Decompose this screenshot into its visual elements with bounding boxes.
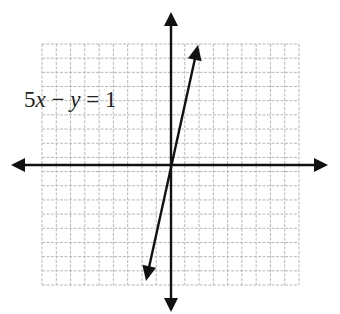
equation-coef-x: 5 [24,87,36,112]
x-axis-left-arrow-icon [11,158,25,172]
x-axis-right-arrow-icon [314,158,328,172]
line-up-arrow-icon [188,45,202,61]
y-axis-up-arrow-icon [164,12,178,26]
line-down-arrow-icon [142,265,156,281]
equation-label: 5x − y = 1 [24,87,116,113]
equation-equals: = [80,87,104,112]
coordinate-graph [0,0,340,314]
equation-rhs: 1 [105,87,117,112]
equation-minus: − [46,87,70,112]
equation-var-y: y [70,87,80,112]
y-axis-down-arrow-icon [164,298,178,312]
equation-var-x: x [36,87,46,112]
